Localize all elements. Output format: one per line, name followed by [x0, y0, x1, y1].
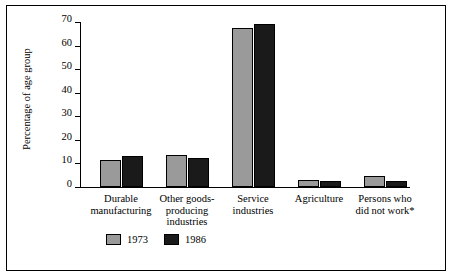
y-tick-mark	[75, 116, 80, 117]
y-tick-label: 50	[62, 61, 73, 72]
bar-1973	[232, 28, 253, 187]
y-axis-line	[80, 22, 81, 187]
legend-label-1973: 1973	[127, 234, 148, 245]
y-tick-mark	[75, 69, 80, 70]
x-category-label-4: Persons who did not work*	[339, 193, 431, 216]
y-tick-label: 40	[62, 85, 73, 96]
bar-1986	[386, 181, 407, 187]
legend-swatch-1986	[164, 234, 179, 245]
bar-1973	[298, 180, 319, 187]
legend-label-1986: 1986	[185, 234, 206, 245]
bar-group-service-industries	[220, 22, 286, 187]
bar-1986	[254, 24, 275, 187]
bar-1986	[188, 158, 209, 187]
y-tick-mark	[75, 140, 80, 141]
bar-1973	[100, 160, 121, 187]
y-tick-label: 20	[62, 132, 73, 143]
plot-area: 0 10 20 30 40 50 60 70	[80, 22, 410, 187]
y-tick-label: 0	[67, 179, 72, 190]
y-tick-mark	[75, 163, 80, 164]
bar-1973	[364, 176, 385, 187]
bar-1973	[166, 155, 187, 187]
y-tick-mark	[75, 22, 80, 23]
legend-item-1986: 1986	[164, 234, 206, 245]
x-axis-line	[80, 187, 410, 188]
bar-group-durable-manufacturing	[88, 22, 154, 187]
y-tick-label: 10	[62, 155, 73, 166]
y-tick-mark	[75, 93, 80, 94]
bar-group-agriculture	[286, 22, 352, 187]
bar-1986	[122, 156, 143, 187]
legend-swatch-1973	[106, 234, 121, 245]
legend-item-1973: 1973	[106, 234, 148, 245]
legend: 1973 1986	[106, 234, 206, 245]
y-axis-title: Percentage of age group	[21, 0, 33, 24]
bar-1986	[320, 181, 341, 187]
y-axis-title-text: Percentage of age group	[21, 24, 32, 174]
bar-group-persons-who-did-not-work	[352, 22, 418, 187]
bar-group-other-goods-producing	[154, 22, 220, 187]
y-tick-label: 30	[62, 108, 73, 119]
chart-frame: Percentage of age group 0 10 20 30 40 50	[6, 5, 446, 271]
y-tick-mark	[75, 187, 80, 188]
y-tick-mark	[75, 46, 80, 47]
y-tick-label: 60	[62, 38, 73, 49]
y-tick-label: 70	[62, 14, 73, 25]
